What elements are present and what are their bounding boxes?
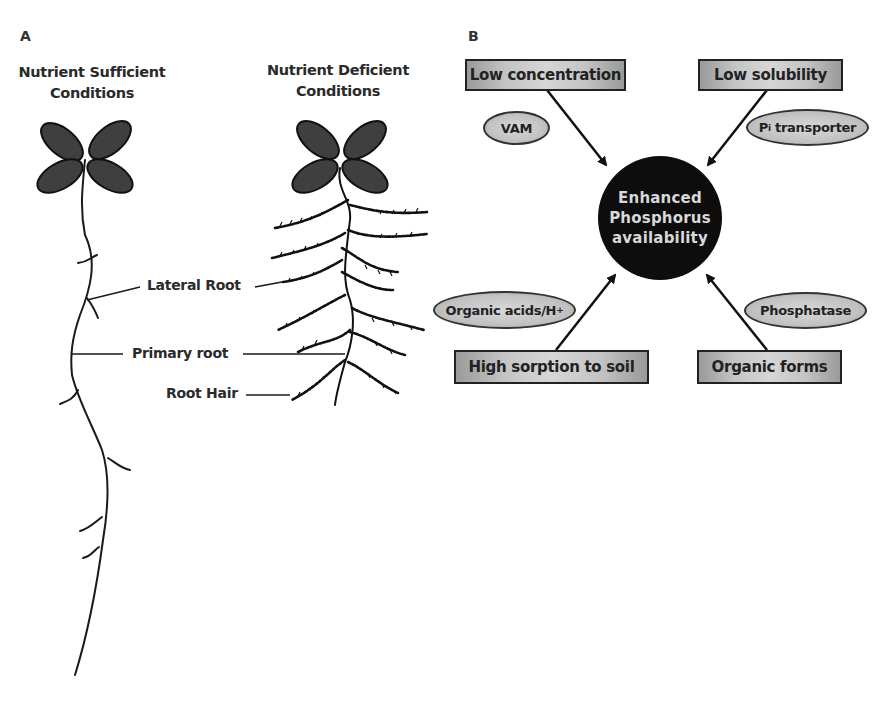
sufficient-title-line1: Nutrient Sufficient bbox=[10, 62, 174, 83]
pi-transporter-text: transporter bbox=[771, 120, 856, 135]
sufficient-plant-root-icon bbox=[60, 160, 130, 675]
root-hair-label: Root Hair bbox=[166, 385, 238, 401]
panel-b-letter: B bbox=[468, 28, 479, 44]
high-sorption-box: High sorption to soil bbox=[454, 350, 649, 384]
phosphatase-ellipse: Phosphatase bbox=[744, 292, 867, 329]
organic-forms-box: Organic forms bbox=[697, 350, 842, 384]
low-concentration-box: Low concentration bbox=[465, 59, 626, 91]
deficient-plant-root-icon bbox=[272, 168, 427, 405]
deficient-plant-leaves-icon bbox=[287, 114, 393, 200]
sufficient-conditions-title: Nutrient Sufficient Conditions bbox=[10, 62, 174, 104]
deficient-title-line2: Conditions bbox=[258, 81, 418, 102]
label-leader-lines bbox=[72, 282, 345, 395]
low-solubility-box: Low solubility bbox=[698, 59, 843, 91]
deficient-conditions-title: Nutrient Deficient Conditions bbox=[258, 60, 418, 102]
sufficient-title-line2: Conditions bbox=[10, 83, 174, 104]
deficient-title-line1: Nutrient Deficient bbox=[258, 60, 418, 81]
primary-root-label: Primary root bbox=[132, 345, 228, 361]
center-line3: availability bbox=[612, 228, 708, 248]
sufficient-plant-leaves-icon bbox=[32, 114, 138, 200]
center-line2: Phosphorus bbox=[609, 208, 711, 228]
pi-transporter-ellipse: Pi transporter bbox=[746, 109, 869, 146]
lateral-root-label: Lateral Root bbox=[147, 277, 241, 293]
vam-ellipse: VAM bbox=[483, 111, 550, 145]
panel-a-letter: A bbox=[20, 28, 31, 44]
center-line1: Enhanced bbox=[618, 188, 702, 208]
pi-symbol: P bbox=[759, 120, 768, 135]
proton-superscript: + bbox=[556, 305, 563, 315]
organic-acids-ellipse: Organic acids/H+ bbox=[433, 291, 576, 329]
enhanced-phosphorus-circle: Enhanced Phosphorus availability bbox=[598, 156, 722, 280]
organic-acids-text: Organic acids/H bbox=[446, 303, 557, 318]
